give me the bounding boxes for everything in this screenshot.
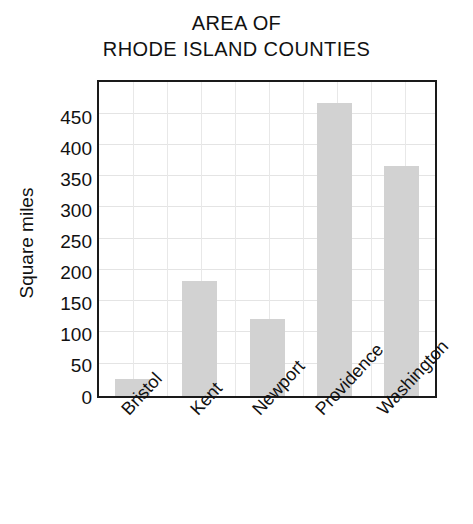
y-tick-label: 350 (36, 170, 92, 189)
y-tick-label: 300 (36, 201, 92, 220)
chart-title-line-2: RHODE ISLAND COUNTIES (0, 36, 473, 62)
bar-series (99, 82, 435, 396)
bar-providence[interactable] (317, 103, 352, 396)
y-tick-label: 200 (36, 263, 92, 282)
plot-area (97, 80, 437, 398)
y-tick-label: 250 (36, 232, 92, 251)
x-axis-tick-labels: Bristol Kent Newport Providence Washingt… (97, 398, 437, 518)
chart-title: AREA OF RHODE ISLAND COUNTIES (0, 10, 473, 62)
chart-title-line-1: AREA OF (192, 12, 282, 34)
y-tick-label: 50 (36, 356, 92, 375)
y-tick-label: 450 (36, 108, 92, 127)
y-tick-label: 150 (36, 294, 92, 313)
y-tick-label: 100 (36, 325, 92, 344)
y-tick-label: 0 (36, 388, 92, 407)
y-axis-label: Square miles (16, 158, 38, 328)
y-tick-label: 400 (36, 139, 92, 158)
bar-chart: AREA OF RHODE ISLAND COUNTIES Square mil… (0, 0, 473, 524)
y-axis-tick-labels: 450 400 350 300 250 200 150 100 50 0 (36, 80, 92, 398)
